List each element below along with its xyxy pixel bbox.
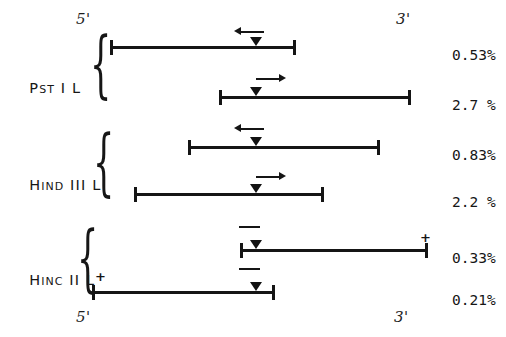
percent-row-1: 0.53%: [452, 48, 496, 63]
top-three-prime-label: 3': [396, 12, 411, 27]
minus-marker-row-5: [239, 226, 260, 228]
fragment-left-cap-row-1: [110, 40, 113, 55]
direction-arrow-left-row-3: [234, 124, 264, 133]
polarity-plus-row-6: +: [95, 270, 106, 283]
percent-row-4: 2.2 %: [452, 195, 496, 210]
fragment-bar-row-4: [134, 193, 324, 196]
fragment-bar-row-2: [219, 96, 411, 99]
fragment-left-cap-row-5: [240, 243, 243, 258]
direction-arrow-left-row-1: [234, 27, 264, 36]
enzyme-label-initial: P: [29, 80, 39, 96]
percent-row-6: 0.21%: [452, 293, 496, 308]
fragment-right-cap-row-6: [272, 285, 275, 300]
cleavage-marker-row-2: [250, 87, 262, 96]
cleavage-marker-row-3: [250, 137, 262, 146]
enzyme-label-pst-i-l: PST I L: [6, 66, 81, 110]
fragment-bar-row-6: [92, 291, 275, 294]
brace-pst-i-l: {: [90, 29, 111, 102]
enzyme-label-initial: H: [29, 177, 41, 193]
fragment-right-cap-row-5: [425, 243, 428, 258]
enzyme-label-smallcaps: IND: [41, 180, 64, 193]
fragment-left-cap-row-4: [134, 187, 137, 202]
cleavage-marker-row-1: [250, 37, 262, 46]
percent-row-2: 2.7 %: [452, 98, 496, 113]
fragment-right-cap-row-2: [408, 90, 411, 105]
restriction-map-figure: 5' 3' PST I L HIND III L HINC II L { { {…: [0, 0, 506, 337]
fragment-left-cap-row-3: [188, 140, 191, 155]
fragment-bar-row-1: [110, 46, 296, 49]
brace-hinc-ii-l: {: [77, 223, 98, 296]
fragment-left-cap-row-2: [219, 90, 222, 105]
cleavage-marker-row-4: [250, 184, 262, 193]
bottom-five-prime-label: 5': [76, 310, 91, 325]
enzyme-label-hind-iii-l: HIND III L: [6, 163, 102, 207]
fragment-bar-row-5: [240, 249, 428, 252]
top-five-prime-label: 5': [76, 12, 91, 27]
fragment-left-cap-row-6: [92, 285, 95, 300]
cleavage-marker-row-6: [250, 282, 262, 291]
fragment-right-cap-row-3: [377, 140, 380, 155]
fragment-bar-row-3: [188, 146, 380, 149]
enzyme-label-suffix: I L: [55, 80, 81, 96]
brace-hind-iii-l: {: [93, 127, 114, 200]
minus-marker-row-6: [239, 268, 260, 270]
direction-arrow-right-row-4: [256, 172, 286, 181]
bottom-three-prime-label: 3': [394, 310, 409, 325]
percent-row-5: 0.33%: [452, 251, 496, 266]
fragment-right-cap-row-1: [293, 40, 296, 55]
enzyme-label-initial: H: [29, 272, 41, 288]
enzyme-label-smallcaps: ST: [39, 83, 55, 96]
fragment-right-cap-row-4: [321, 187, 324, 202]
polarity-plus-row-5: +: [420, 231, 431, 244]
enzyme-label-smallcaps: INC: [41, 275, 63, 288]
cleavage-marker-row-5: [250, 240, 262, 249]
percent-row-3: 0.83%: [452, 148, 496, 163]
direction-arrow-right-row-2: [256, 74, 286, 83]
